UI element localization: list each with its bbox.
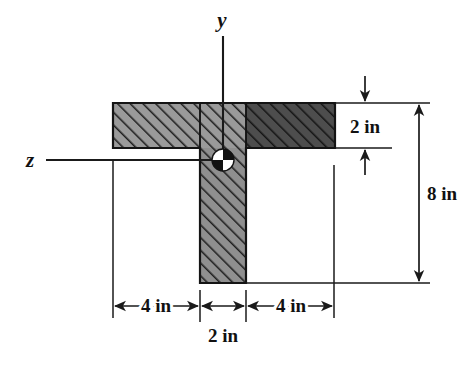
- dim-label-right-flange-width: 4 in: [276, 295, 307, 316]
- dim-label-web-width: 2 in: [208, 325, 239, 346]
- z-axis-label: z: [25, 148, 35, 172]
- dim-label-total-height: 8 in: [427, 183, 458, 204]
- dim-label-flange-thickness: 2 in: [350, 116, 381, 137]
- right-flange-block: [246, 103, 335, 148]
- t-section-diagram: y z 2 in 8 in: [0, 0, 467, 369]
- left-flange-block: [113, 103, 200, 148]
- figure-root: y z 2 in 8 in: [0, 0, 467, 369]
- dim-label-left-flange-width: 4 in: [141, 295, 172, 316]
- centroid-marker: [212, 149, 234, 171]
